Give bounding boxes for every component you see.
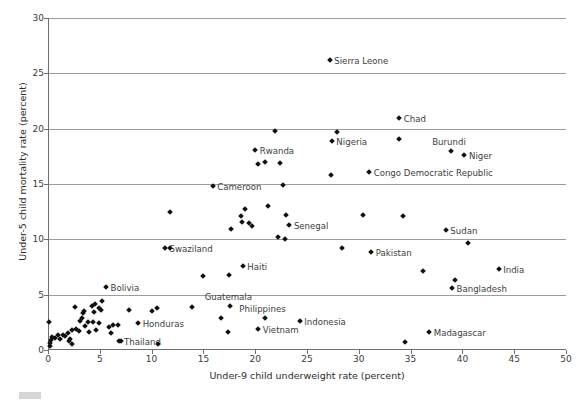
data-point[interactable]	[452, 277, 458, 283]
data-point[interactable]	[262, 159, 268, 165]
data-point[interactable]	[403, 339, 409, 345]
y-tick-mark	[44, 239, 48, 240]
point-label: Congo Democratic Republic	[374, 169, 493, 178]
data-point[interactable]	[189, 304, 195, 310]
point-label: Nigeria	[336, 138, 367, 147]
point-label: Honduras	[143, 320, 184, 329]
data-point-guatemala[interactable]	[227, 303, 233, 309]
data-point[interactable]	[328, 172, 334, 178]
data-point-congo-democratic-republic[interactable]	[366, 169, 372, 175]
data-point[interactable]	[167, 209, 173, 215]
data-point-india[interactable]	[496, 266, 502, 272]
gridline	[48, 295, 566, 296]
data-point-bolivia[interactable]	[103, 284, 109, 290]
data-point-burundi[interactable]	[448, 148, 454, 154]
data-point[interactable]	[334, 129, 340, 135]
data-point-senegal[interactable]	[287, 222, 293, 228]
point-label: Sudan	[450, 227, 477, 236]
x-tick-label: 5	[97, 355, 103, 364]
y-axis-tick-labels: 051015202530	[20, 18, 44, 350]
x-tick-label: 40	[457, 355, 468, 364]
footer-swatch	[19, 392, 41, 399]
data-point[interactable]	[226, 272, 232, 278]
data-point[interactable]	[76, 328, 82, 334]
y-axis-line	[48, 18, 49, 350]
data-point[interactable]	[242, 207, 248, 213]
gridline	[48, 184, 566, 185]
y-tick-label: 15	[33, 180, 44, 189]
point-label: Vietnam	[263, 326, 299, 335]
point-label: India	[503, 266, 524, 275]
y-tick-mark	[44, 295, 48, 296]
data-point-madagascar[interactable]	[426, 329, 432, 335]
data-point[interactable]	[420, 269, 426, 275]
point-label: Sierra Leone	[334, 57, 388, 66]
data-point[interactable]	[229, 227, 235, 233]
plot-area: Sierra LeoneChadNigeriaBurundiNigerCongo…	[48, 18, 566, 350]
data-point[interactable]	[91, 310, 97, 316]
data-point[interactable]	[90, 319, 96, 325]
data-point-vietnam[interactable]	[255, 326, 261, 332]
data-point[interactable]	[249, 223, 255, 229]
data-point[interactable]	[218, 315, 224, 321]
data-point[interactable]	[72, 304, 78, 310]
data-point[interactable]	[238, 213, 244, 219]
data-point[interactable]	[99, 298, 105, 304]
point-label: Madagascar	[434, 329, 486, 338]
y-tick-mark	[44, 73, 48, 74]
y-tick-mark	[44, 184, 48, 185]
y-tick-label: 30	[33, 14, 44, 23]
data-point[interactable]	[154, 305, 160, 311]
data-point[interactable]	[401, 213, 407, 219]
x-tick-label: 15	[198, 355, 209, 364]
y-tick-label: 10	[33, 235, 44, 244]
data-point[interactable]	[360, 212, 366, 218]
data-point[interactable]	[116, 322, 122, 328]
data-point[interactable]	[126, 307, 132, 313]
x-tick-label: 0	[45, 355, 51, 364]
data-point-bangladesh[interactable]	[449, 285, 455, 291]
point-label: Guatemala	[205, 292, 252, 301]
point-label: Burundi	[432, 138, 466, 147]
point-label: Senegal	[294, 222, 329, 231]
data-point-haiti[interactable]	[240, 263, 246, 269]
data-point[interactable]	[396, 136, 402, 142]
data-point[interactable]	[108, 331, 114, 337]
data-point-chad[interactable]	[396, 115, 402, 121]
data-point-cameroon[interactable]	[210, 183, 216, 189]
x-tick-label: 25	[301, 355, 312, 364]
y-tick-mark	[44, 18, 48, 19]
data-point-honduras[interactable]	[135, 321, 141, 327]
point-label: Bangladesh	[457, 285, 507, 294]
data-point[interactable]	[465, 240, 471, 246]
data-point[interactable]	[93, 327, 99, 333]
data-point[interactable]	[201, 273, 207, 279]
data-point-rwanda[interactable]	[252, 147, 258, 153]
data-point-philippines[interactable]	[262, 315, 268, 321]
data-point[interactable]	[283, 212, 289, 218]
data-point[interactable]	[149, 308, 155, 314]
data-point[interactable]	[87, 329, 93, 335]
gridline	[48, 18, 566, 19]
data-point-indonesia[interactable]	[297, 318, 303, 324]
data-point[interactable]	[225, 329, 231, 335]
x-axis-tick-labels: 05101520253035404550	[48, 355, 566, 369]
data-point[interactable]	[265, 203, 271, 209]
x-tick-label: 50	[560, 355, 571, 364]
data-point-sudan[interactable]	[443, 228, 449, 234]
data-point[interactable]	[282, 236, 288, 242]
data-point[interactable]	[339, 245, 345, 251]
data-point-nigeria[interactable]	[329, 138, 335, 144]
data-point-niger[interactable]	[462, 152, 468, 158]
point-label: Pakistan	[376, 248, 412, 257]
data-point-sierra-leone[interactable]	[327, 57, 333, 63]
data-point-pakistan[interactable]	[368, 249, 374, 255]
data-point[interactable]	[98, 307, 104, 313]
point-label: Haiti	[247, 263, 267, 272]
data-point[interactable]	[239, 219, 245, 225]
data-point[interactable]	[277, 160, 283, 166]
data-point[interactable]	[255, 161, 261, 167]
y-tick-label: 25	[33, 69, 44, 78]
gridline	[48, 129, 566, 130]
data-point[interactable]	[96, 321, 102, 327]
